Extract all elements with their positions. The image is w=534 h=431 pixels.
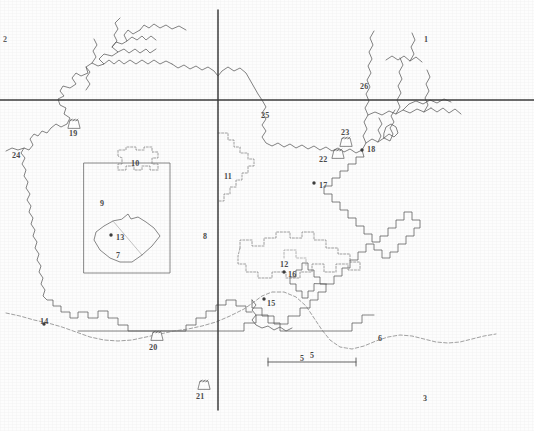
label-26: 26 — [360, 83, 369, 91]
point-marker-17 — [312, 181, 315, 184]
dam-symbol-20 — [151, 331, 163, 340]
estuary-outline-b — [378, 118, 382, 142]
point-marker-15 — [262, 297, 265, 300]
label-19: 19 — [69, 130, 78, 138]
label-21: 21 — [196, 393, 205, 401]
label-22: 22 — [319, 156, 328, 164]
dam-symbol-23 — [340, 137, 352, 146]
label-17: 17 — [319, 182, 328, 190]
river-branch-a — [368, 108, 431, 115]
southern-boundary — [78, 315, 374, 331]
dam-symbol-22 — [332, 149, 344, 158]
dam-symbol-21 — [198, 380, 210, 389]
label-10: 10 — [131, 160, 140, 168]
river-branch-e — [431, 108, 461, 114]
label-20: 20 — [149, 344, 158, 352]
label-2: 2 — [3, 36, 7, 44]
coastline-northeast — [172, 64, 362, 153]
inlet-finger-c — [118, 49, 156, 53]
label-16: 16 — [288, 271, 297, 279]
study-area-square — [84, 163, 170, 273]
label-23: 23 — [341, 129, 350, 137]
label-12: 12 — [280, 261, 289, 269]
inlet-finger-d — [104, 60, 172, 64]
feature-6-dashed-river — [6, 292, 496, 349]
label-11: 11 — [224, 173, 232, 181]
river-branch-g — [410, 33, 415, 61]
scale-bar-label: 5 — [310, 352, 314, 360]
dam-symbol-19 — [68, 119, 80, 128]
label-7: 7 — [116, 252, 120, 260]
label-15: 15 — [267, 300, 276, 308]
label-6: 6 — [378, 335, 382, 343]
region-11-outline — [218, 133, 254, 201]
label-3: 3 — [423, 395, 427, 403]
label-14: 14 — [40, 318, 49, 326]
point-marker-16 — [282, 270, 285, 273]
admin-boundary-east — [252, 150, 420, 324]
inlet-finger-f — [86, 67, 90, 90]
admin-boundary-peninsula — [290, 263, 326, 298]
label-9: 9 — [100, 200, 104, 208]
river-branch-d — [424, 70, 430, 112]
label-24: 24 — [12, 152, 21, 160]
map-figure: 2126251923241022181117981371216151462052… — [0, 0, 534, 431]
label-18: 18 — [367, 146, 376, 154]
point-marker-13 — [109, 233, 112, 236]
river-branch-f — [386, 56, 422, 62]
label-5: 5 — [300, 355, 304, 363]
inlet-finger-e — [92, 39, 97, 63]
map-drawing — [0, 0, 534, 431]
label-1: 1 — [424, 36, 428, 44]
point-marker-18 — [360, 148, 363, 151]
river-branch-b — [396, 58, 403, 114]
label-8: 8 — [203, 233, 207, 241]
inlet-finger-g — [140, 24, 186, 30]
label-25: 25 — [261, 112, 270, 120]
inner-polygon — [94, 214, 160, 262]
label-13: 13 — [116, 234, 125, 242]
inlet-finger-b — [127, 36, 156, 41]
